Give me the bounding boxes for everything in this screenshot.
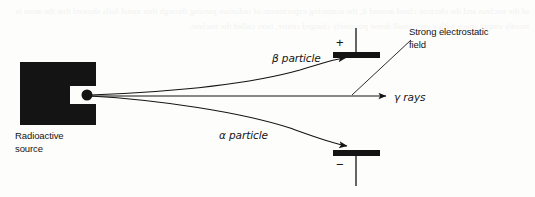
- electrostatic-field-label: Strong electrostaticfield: [409, 26, 488, 51]
- electrostatic-field-label-line1: Strong electrostatic: [409, 26, 488, 37]
- radiation-deflection-figure: of the nucleus and the electron cloud ar…: [0, 0, 535, 197]
- alpha-particle-label: α particle: [219, 129, 268, 142]
- gamma-rays-label: γ rays: [394, 91, 425, 104]
- radioactive-source-label-line1: Radioactive: [15, 130, 64, 141]
- radioactive-source-label: Radioactivesource: [15, 130, 64, 155]
- positive-plate-sign: +: [336, 36, 344, 49]
- electrostatic-field-label-line2: field: [409, 39, 426, 50]
- field-leader-line: [352, 40, 411, 95]
- negative-plate-sign: −: [336, 158, 344, 171]
- radioactive-source-label-line2: source: [15, 143, 43, 154]
- beta-particle-label: β particle: [272, 52, 321, 65]
